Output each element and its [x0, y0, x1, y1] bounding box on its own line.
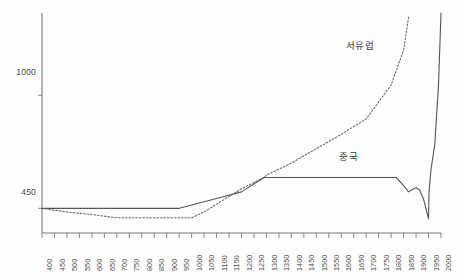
x-axis-tick-label: 400: [45, 259, 54, 271]
x-axis-tick-label: 600: [95, 259, 104, 271]
x-axis-tick-label: 500: [70, 259, 79, 271]
x-axis-tick-label: 1200: [245, 255, 254, 271]
x-axis-tick-label: 1750: [382, 255, 391, 271]
x-axis-tick-label: 1700: [369, 255, 378, 271]
x-axis-tick-label: 450: [58, 259, 67, 271]
x-axis-tick-label: 900: [170, 259, 179, 271]
x-axis-tick-labels: 4004505005506006507007508008509009501000…: [0, 0, 459, 277]
x-axis-tick-label: 2000: [444, 255, 453, 271]
x-axis-tick-label: 1000: [195, 255, 204, 271]
x-axis-tick-label: 1500: [320, 255, 329, 271]
x-axis-tick-label: 1850: [407, 255, 416, 271]
x-axis-tick-label: 950: [182, 259, 191, 271]
x-axis-tick-label: 1900: [419, 255, 428, 271]
x-axis-tick-label: 650: [108, 259, 117, 271]
x-axis-tick-label: 1650: [357, 255, 366, 271]
x-axis-tick-label: 850: [157, 259, 166, 271]
series-label-western-europe: 서유럽: [346, 38, 374, 52]
x-axis-tick-label: 750: [132, 259, 141, 271]
x-axis-tick-label: 1050: [207, 255, 216, 271]
x-axis-tick-label: 1550: [332, 255, 341, 271]
x-axis-tick-label: 1400: [295, 255, 304, 271]
x-axis-tick-label: 1450: [307, 255, 316, 271]
x-axis-tick-label: 1950: [432, 255, 441, 271]
x-axis-tick-label: 1300: [270, 255, 279, 271]
x-axis-tick-label: 1150: [232, 255, 241, 271]
x-axis-tick-label: 550: [83, 259, 92, 271]
series-label-china: 중국: [339, 149, 358, 163]
x-axis-tick-label: 1250: [257, 255, 266, 271]
x-axis-tick-label: 1350: [282, 255, 291, 271]
x-axis-tick-label: 1100: [220, 255, 229, 271]
x-axis-tick-label: 800: [145, 259, 154, 271]
x-axis-tick-label: 700: [120, 259, 129, 271]
chart-container: 1000 450 4004505005506006507007508008509…: [0, 0, 459, 277]
x-axis-tick-label: 1600: [344, 255, 353, 271]
x-axis-tick-label: 1800: [394, 255, 403, 271]
